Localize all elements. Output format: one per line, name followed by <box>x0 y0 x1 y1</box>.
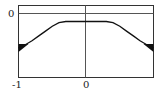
x-tick-label-minus-one: -1 <box>12 80 22 90</box>
y-tick-label-zero: 0 <box>8 9 14 19</box>
right-noise-band <box>144 44 154 52</box>
left-noise-band <box>19 44 29 52</box>
x-tick-label-zero: 0 <box>83 80 89 90</box>
line-chart <box>0 0 158 92</box>
